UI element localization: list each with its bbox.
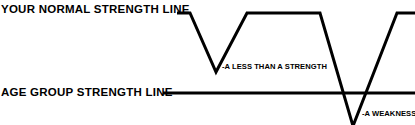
strength-line-diagram: YOUR NORMAL STRENGTH LINE AGE GROUP STRE… [0, 0, 415, 125]
annotation-a-weakness: -A WEAKNESS [362, 109, 415, 118]
diagram-canvas [0, 0, 415, 125]
age-group-strength-line-label: AGE GROUP STRENGTH LINE [1, 86, 173, 98]
normal-strength-line-label: YOUR NORMAL STRENGTH LINE [1, 3, 190, 15]
annotation-less-than-a-strength: -A LESS THAN A STRENGTH [222, 62, 327, 71]
